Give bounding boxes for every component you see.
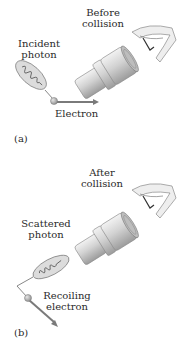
microscope-icon [72, 210, 141, 269]
electron-icon [25, 295, 32, 302]
panel-b [17, 184, 176, 327]
electron-label: Electron [55, 108, 98, 119]
microscope-icon [72, 44, 141, 103]
photon-wave-icon [11, 56, 51, 95]
eye-icon [132, 26, 176, 62]
panel-a-label: (a) [14, 133, 28, 144]
eye-icon [132, 184, 176, 218]
recoiling-electron-label: Recoiling electron [42, 290, 92, 312]
panel-a-title: Before collision [78, 7, 128, 29]
scattered-photon-label: Scattered photon [21, 218, 71, 240]
photon-wave-icon [30, 251, 73, 284]
electron-icon [51, 98, 58, 105]
incident-photon-label: Incident photon [14, 38, 64, 60]
panel-b-title: After collision [77, 167, 127, 189]
panel-b-label: (b) [14, 327, 28, 338]
